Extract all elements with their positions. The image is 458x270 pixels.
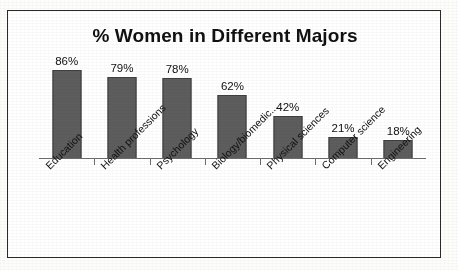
chart-frame: % Women in Different Majors 86%79%78%62%… (7, 10, 441, 258)
bar-value-label: 86% (55, 55, 78, 67)
x-axis-line (39, 158, 426, 159)
chart-title: % Women in Different Majors (8, 25, 442, 47)
bar-value-label: 79% (110, 62, 133, 74)
bar-value-label: 78% (166, 63, 189, 75)
bar-value-label: 42% (276, 101, 299, 113)
scanned-page: % Women in Different Majors 86%79%78%62%… (0, 0, 458, 270)
bar-value-label: 62% (221, 80, 244, 92)
x-axis-category-labels: EducationHealth professionsPsychologyBio… (39, 163, 426, 258)
